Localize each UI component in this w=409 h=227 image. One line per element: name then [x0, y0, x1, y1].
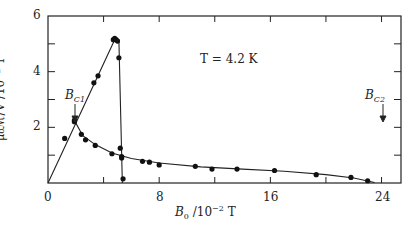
y-tick-2: 2 — [33, 119, 41, 133]
plot-frame — [48, 16, 401, 183]
bc2-arrow-icon — [380, 104, 386, 122]
x-tick-0: 0 — [44, 190, 52, 204]
bc1-label: BC1 — [65, 88, 85, 104]
x-tick-8: 8 — [156, 190, 164, 204]
y-axis-label: μ₀ℳ/V /10⁻² T — [0, 57, 7, 141]
y-tick-4: 4 — [33, 64, 41, 78]
temperature-annotation: T = 4.2 K — [200, 52, 258, 66]
x-tick-24: 24 — [375, 190, 390, 204]
axis-ticks — [48, 16, 401, 183]
chart-canvas — [0, 0, 409, 227]
series-decreasing-line — [74, 120, 374, 182]
x-tick-16: 16 — [263, 190, 278, 204]
x-axis-label: B0 /10−2 T — [175, 204, 236, 221]
series-rising-line — [48, 38, 122, 183]
bc2-label: BC2 — [365, 88, 385, 104]
y-tick-6: 6 — [33, 8, 41, 22]
